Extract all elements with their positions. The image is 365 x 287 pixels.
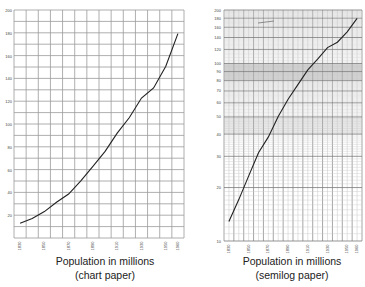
svg-text:40: 40	[8, 190, 13, 195]
semilog-chart: 1020304050607080901001201401601802001830…	[192, 0, 365, 260]
svg-text:20: 20	[8, 213, 13, 218]
svg-text:1830: 1830	[17, 241, 22, 251]
svg-text:180: 180	[214, 16, 221, 21]
svg-text:60: 60	[8, 168, 13, 173]
svg-text:140: 140	[214, 35, 221, 40]
svg-text:80: 80	[217, 78, 222, 83]
svg-text:1910: 1910	[305, 244, 310, 254]
svg-text:120: 120	[214, 47, 221, 52]
linear-chart: 2040608010012014016018020018301850187018…	[0, 0, 192, 260]
svg-text:200: 200	[214, 8, 221, 13]
svg-text:1950: 1950	[163, 241, 168, 251]
svg-text:1960: 1960	[354, 244, 359, 254]
svg-text:60: 60	[217, 100, 222, 105]
svg-text:70: 70	[217, 88, 222, 93]
svg-text:90: 90	[217, 69, 222, 74]
svg-text:160: 160	[214, 25, 221, 30]
svg-text:1890: 1890	[90, 241, 95, 251]
svg-text:180: 180	[5, 31, 12, 36]
linear-chart-subtitle: (chart paper)	[20, 268, 190, 282]
svg-text:1870: 1870	[265, 244, 270, 254]
svg-text:40: 40	[217, 132, 222, 137]
svg-text:1930: 1930	[139, 241, 144, 251]
svg-text:20: 20	[217, 185, 222, 190]
svg-text:1870: 1870	[66, 241, 71, 251]
semilog-chart-panel: 1020304050607080901001201401601802001830…	[192, 0, 365, 287]
svg-text:1960: 1960	[175, 241, 180, 251]
svg-text:1850: 1850	[41, 241, 46, 251]
svg-text:160: 160	[5, 54, 12, 59]
linear-chart-panel: 2040608010012014016018020018301850187018…	[0, 0, 192, 287]
svg-text:50: 50	[217, 114, 222, 119]
svg-text:1910: 1910	[114, 241, 119, 251]
svg-text:80: 80	[8, 145, 13, 150]
semilog-chart-subtitle: (semilog paper)	[212, 268, 365, 282]
svg-text:1950: 1950	[344, 244, 349, 254]
svg-text:100: 100	[5, 122, 12, 127]
svg-text:1850: 1850	[246, 244, 251, 254]
svg-text:100: 100	[214, 61, 221, 66]
linear-chart-title: Population in millions	[20, 254, 190, 268]
linear-chart-caption: Population in millions (chart paper)	[20, 254, 190, 282]
svg-text:200: 200	[5, 8, 12, 13]
semilog-chart-title: Population in millions	[212, 254, 365, 268]
svg-text:10: 10	[217, 239, 222, 244]
svg-text:120: 120	[5, 99, 12, 104]
svg-text:1890: 1890	[285, 244, 290, 254]
svg-text:30: 30	[217, 154, 222, 159]
svg-text:1830: 1830	[226, 244, 231, 254]
svg-text:1930: 1930	[325, 244, 330, 254]
svg-text:140: 140	[5, 76, 12, 81]
semilog-chart-caption: Population in millions (semilog paper)	[212, 254, 365, 282]
